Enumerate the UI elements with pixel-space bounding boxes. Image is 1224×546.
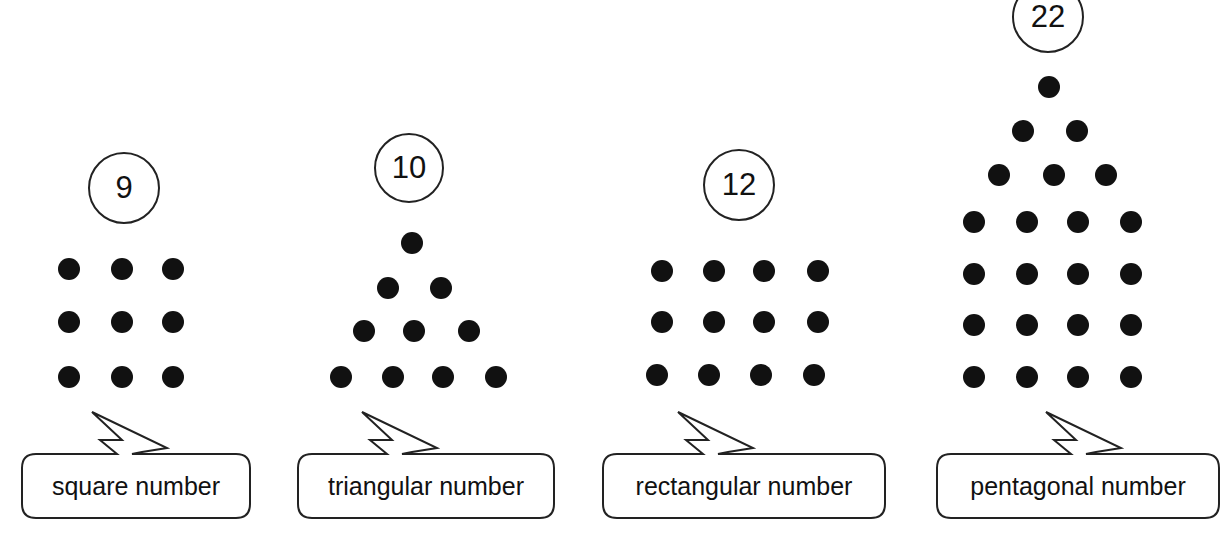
dot bbox=[111, 258, 133, 280]
dot bbox=[377, 277, 399, 299]
label-rectangular: rectangular number bbox=[603, 474, 885, 499]
label-square: square number bbox=[22, 474, 250, 499]
dot bbox=[1120, 314, 1142, 336]
dot bbox=[753, 311, 775, 333]
dot bbox=[1016, 314, 1038, 336]
dot bbox=[162, 258, 184, 280]
dot bbox=[803, 364, 825, 386]
dot bbox=[1095, 164, 1117, 186]
dot bbox=[963, 314, 985, 336]
count-circle: 12 bbox=[703, 149, 775, 221]
dot bbox=[988, 164, 1010, 186]
dot bbox=[807, 260, 829, 282]
dot bbox=[1120, 211, 1142, 233]
dot bbox=[1016, 211, 1038, 233]
dot bbox=[1016, 263, 1038, 285]
dot bbox=[1067, 314, 1089, 336]
dot bbox=[1012, 120, 1034, 142]
dot bbox=[703, 260, 725, 282]
dot bbox=[58, 311, 80, 333]
count-circle: 9 bbox=[88, 152, 160, 224]
dot bbox=[58, 366, 80, 388]
dot bbox=[430, 277, 452, 299]
dot bbox=[58, 258, 80, 280]
dot bbox=[753, 260, 775, 282]
dot bbox=[807, 311, 829, 333]
dot bbox=[432, 366, 454, 388]
dot bbox=[963, 263, 985, 285]
dot bbox=[651, 260, 673, 282]
dot bbox=[703, 311, 725, 333]
dot bbox=[1067, 366, 1089, 388]
dot bbox=[646, 364, 668, 386]
dot bbox=[1016, 366, 1038, 388]
dot bbox=[1043, 164, 1065, 186]
dot bbox=[750, 364, 772, 386]
dot bbox=[330, 366, 352, 388]
dot bbox=[162, 311, 184, 333]
dot bbox=[651, 311, 673, 333]
speech-box-rectangular bbox=[603, 412, 885, 518]
dot bbox=[162, 366, 184, 388]
dot bbox=[698, 364, 720, 386]
speech-box-triangular bbox=[298, 412, 554, 518]
dot bbox=[111, 311, 133, 333]
count-circle: 10 bbox=[374, 133, 444, 203]
dot bbox=[963, 366, 985, 388]
dot bbox=[401, 232, 423, 254]
label-triangular: triangular number bbox=[298, 474, 554, 499]
dot bbox=[111, 366, 133, 388]
dot bbox=[1067, 211, 1089, 233]
speech-box-square bbox=[22, 412, 250, 518]
dot bbox=[485, 366, 507, 388]
dot bbox=[1120, 263, 1142, 285]
dot bbox=[1067, 263, 1089, 285]
dot bbox=[1038, 76, 1060, 98]
dot bbox=[353, 320, 375, 342]
label-pentagonal: pentagonal number bbox=[937, 474, 1219, 499]
dot bbox=[1120, 366, 1142, 388]
dot bbox=[1066, 120, 1088, 142]
dot bbox=[458, 320, 480, 342]
speech-box-pentagonal bbox=[937, 412, 1219, 518]
dot bbox=[963, 211, 985, 233]
dot bbox=[382, 366, 404, 388]
dot bbox=[403, 320, 425, 342]
